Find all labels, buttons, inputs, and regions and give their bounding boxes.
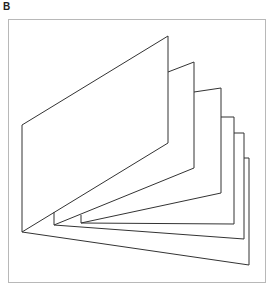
page-4: [81, 117, 234, 224]
page-3: [81, 88, 221, 223]
pages-group: [22, 36, 249, 265]
page-2: [54, 62, 194, 225]
fanned-pages-diagram: [0, 0, 269, 287]
page-1: [22, 36, 168, 232]
figure-frame: [9, 20, 266, 283]
